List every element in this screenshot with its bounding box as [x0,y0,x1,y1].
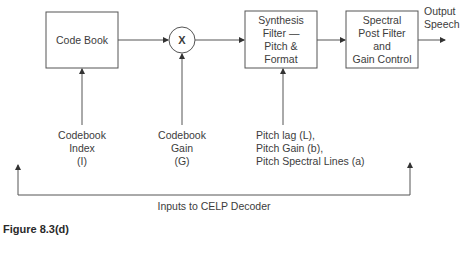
index-line-1: Codebook [52,129,112,142]
gain-line-1: Codebook [152,129,212,142]
figure-caption: Figure 8.3(d) [3,223,69,235]
index-line-3: (I) [52,155,112,168]
postfilter-line-3: and [373,40,391,53]
inputs-bracket-label: Inputs to CELP Decoder [134,200,294,213]
multiplier-label: X [169,27,195,53]
index-line-2: Index [52,142,112,155]
gain-line-2: Gain [152,142,212,155]
code-book-label: Code Book [46,12,118,68]
gain-line-3: (G) [152,155,212,168]
pitch-params-label: Pitch lag (L), Pitch Gain (b), Pitch Spe… [256,129,365,168]
post-filter-label: Spectral Post Filter and Gain Control [346,11,418,68]
pitch-line-2: Pitch Gain (b), [256,142,365,155]
synthesis-line-4: Format [264,53,297,66]
codebook-index-label: Codebook Index (I) [52,129,112,168]
synthesis-line-3: Pitch & [264,40,297,53]
postfilter-line-1: Spectral [363,14,402,27]
postfilter-line-4: Gain Control [353,53,412,66]
synthesis-filter-label: Synthesis Filter — Pitch & Format [245,11,317,68]
codebook-gain-label: Codebook Gain (G) [152,129,212,168]
output-line-1: Output [424,5,460,18]
output-speech-label: Output Speech [424,5,460,31]
output-line-2: Speech [424,18,460,31]
pitch-line-3: Pitch Spectral Lines (a) [256,155,365,168]
multiplier-text: X [178,34,185,47]
postfilter-line-2: Post Filter [358,27,405,40]
code-book-text: Code Book [56,34,108,47]
synthesis-line-2: Filter — [263,27,300,40]
synthesis-line-1: Synthesis [258,14,304,27]
pitch-line-1: Pitch lag (L), [256,129,365,142]
